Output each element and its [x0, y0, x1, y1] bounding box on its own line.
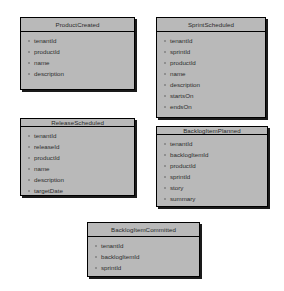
class-attribute-label: tenantId [34, 37, 56, 44]
class-attribute-label: tenantId [170, 37, 192, 44]
class-attribute-row: releaseId [28, 141, 134, 152]
bullet-icon [95, 256, 97, 258]
bullet-icon [164, 84, 166, 86]
class-attribute-row: sprintId [164, 171, 267, 182]
class-attribute-row: story [164, 182, 267, 193]
class-box-header-sprint-scheduled: SprintScheduled [157, 18, 265, 32]
bullet-icon [164, 62, 166, 64]
class-attribute-label: endsOn [170, 103, 192, 110]
class-attribute-row: startsOn [164, 90, 265, 101]
class-attribute-label: targetDate [34, 187, 63, 194]
class-attribute-row: sprintId [95, 262, 199, 273]
bullet-icon [95, 267, 97, 269]
class-attribute-row: description [28, 174, 134, 185]
bullet-icon [164, 106, 166, 108]
bullet-icon [164, 40, 166, 42]
class-attribute-row: backlogItemId [164, 149, 267, 160]
class-box-release-scheduled: ReleaseScheduledtenantIdreleaseIdproduct… [20, 118, 135, 196]
bullet-icon [28, 179, 30, 181]
class-box-header-backlog-item-committed: BacklogItemCommitted [88, 223, 199, 237]
class-attribute-label: story [170, 184, 183, 191]
class-box-title: BacklogItemPlanned [183, 127, 241, 134]
uml-class-diagram-canvas: ProductCreatedtenantIdproductIdnamedescr… [0, 0, 284, 291]
class-box-backlog-item-committed: BacklogItemCommittedtenantIdbacklogItemI… [87, 222, 200, 277]
class-attribute-row: tenantId [28, 130, 134, 141]
class-attribute-row: description [28, 68, 134, 79]
class-attribute-label: sprintId [170, 173, 190, 180]
class-box-attribute-list: tenantIdbacklogItemIdproductIdsprintIdst… [157, 135, 267, 207]
class-attribute-row: description [164, 79, 265, 90]
bullet-icon [28, 51, 30, 53]
class-attribute-row: targetDate [28, 185, 134, 196]
class-box-attribute-list: tenantIdbacklogItemIdsprintId [88, 237, 199, 276]
bullet-icon [28, 190, 30, 192]
class-attribute-row: endsOn [164, 101, 265, 112]
class-attribute-row: tenantId [28, 35, 134, 46]
class-attribute-row: name [164, 68, 265, 79]
class-attribute-row: tenantId [95, 240, 199, 251]
bullet-icon [28, 62, 30, 64]
class-box-backlog-item-planned: BacklogItemPlannedtenantIdbacklogItemIdp… [156, 126, 268, 207]
class-attribute-label: sprintId [170, 48, 190, 55]
class-attribute-row: sprintId [164, 46, 265, 57]
bullet-icon [164, 154, 166, 156]
bullet-icon [95, 245, 97, 247]
bullet-icon [28, 40, 30, 42]
bullet-icon [28, 135, 30, 137]
bullet-icon [164, 51, 166, 53]
class-attribute-label: description [170, 81, 200, 88]
class-attribute-label: backlogItemId [170, 151, 209, 158]
bullet-icon [164, 95, 166, 97]
bullet-icon [164, 176, 166, 178]
class-attribute-label: name [34, 59, 49, 66]
bullet-icon [164, 198, 166, 200]
class-attribute-row: productId [164, 160, 267, 171]
class-attribute-row: name [28, 163, 134, 174]
class-attribute-label: tenantId [170, 140, 192, 147]
class-attribute-label: tenantId [101, 242, 123, 249]
class-box-attribute-list: tenantIdsprintIdproductIdnamedescription… [157, 32, 265, 117]
class-box-title: ProductCreated [55, 21, 99, 28]
class-attribute-label: productId [34, 154, 60, 161]
class-attribute-label: productId [170, 162, 196, 169]
class-box-header-release-scheduled: ReleaseScheduled [21, 119, 134, 127]
class-attribute-row: productId [164, 57, 265, 68]
class-attribute-label: tenantId [34, 132, 56, 139]
bullet-icon [164, 73, 166, 75]
class-attribute-row: summary [164, 193, 267, 204]
bullet-icon [28, 73, 30, 75]
class-box-title: BacklogItemCommitted [111, 226, 176, 233]
class-attribute-label: backlogItemId [101, 253, 140, 260]
class-box-title: ReleaseScheduled [51, 119, 104, 126]
class-box-header-backlog-item-planned: BacklogItemPlanned [157, 127, 267, 135]
class-attribute-label: sprintId [101, 264, 121, 271]
class-attribute-label: description [34, 176, 64, 183]
class-box-product-created: ProductCreatedtenantIdproductIdnamedescr… [20, 17, 135, 90]
class-box-header-product-created: ProductCreated [21, 18, 134, 32]
bullet-icon [164, 165, 166, 167]
class-box-title: SprintScheduled [188, 21, 234, 28]
class-box-sprint-scheduled: SprintScheduledtenantIdsprintIdproductId… [156, 17, 266, 118]
class-attribute-label: startsOn [170, 92, 193, 99]
class-attribute-label: releaseId [34, 143, 59, 150]
class-attribute-label: productId [170, 59, 196, 66]
bullet-icon [164, 187, 166, 189]
class-attribute-label: name [34, 165, 49, 172]
class-attribute-label: name [170, 70, 185, 77]
class-attribute-label: summary [170, 195, 195, 202]
class-attribute-row: productId [28, 46, 134, 57]
class-attribute-label: description [34, 70, 64, 77]
bullet-icon [28, 146, 30, 148]
class-attribute-row: name [28, 57, 134, 68]
class-attribute-row: tenantId [164, 138, 267, 149]
class-box-attribute-list: tenantIdproductIdnamedescription [21, 32, 134, 89]
class-attribute-row: backlogItemId [95, 251, 199, 262]
bullet-icon [28, 168, 30, 170]
bullet-icon [28, 157, 30, 159]
bullet-icon [164, 143, 166, 145]
class-attribute-row: tenantId [164, 35, 265, 46]
class-attribute-label: productId [34, 48, 60, 55]
class-attribute-row: productId [28, 152, 134, 163]
class-box-attribute-list: tenantIdreleaseIdproductIdnamedescriptio… [21, 127, 134, 196]
